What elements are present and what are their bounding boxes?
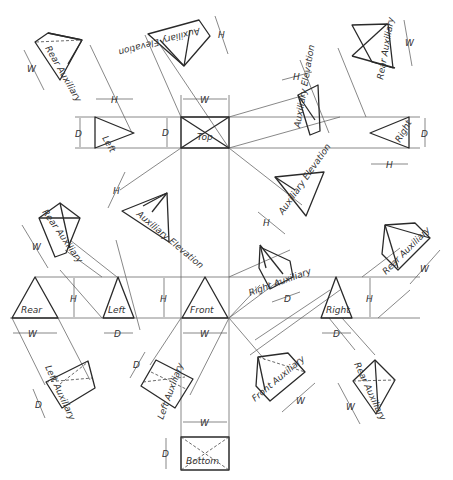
- dim-h-aux-ur: H: [293, 72, 300, 82]
- aux-elev-upper-right: Auxiliary Elevation H: [282, 44, 320, 135]
- aux-elev-top: Auxiliary Elevation H: [117, 16, 228, 66]
- rear-aux-mid-right: Rear Auxiliary W: [380, 223, 440, 284]
- right-label: Right: [326, 305, 350, 315]
- dim-d-bottom: D: [162, 449, 169, 459]
- aux-elev-lower-right: Auxiliary Elevation H: [258, 141, 333, 234]
- dim-h-right-top: H: [386, 160, 393, 170]
- dim-w-top: W: [200, 95, 210, 105]
- aux-elev-ll-label: Auxiliary Elevation: [134, 208, 206, 270]
- left-view: Left D H: [103, 277, 167, 339]
- right-aux: Right Auxiliary D: [247, 245, 313, 304]
- top-label: Top: [197, 132, 213, 142]
- dim-w-ra-mr: W: [420, 264, 430, 274]
- right-view: Right D H: [321, 277, 373, 339]
- dim-w-front: W: [200, 329, 210, 339]
- rear-aux-upper-left: Rear Auxiliary W: [24, 33, 84, 104]
- front-view: Front W: [182, 277, 228, 339]
- left-view-top-row: Left H D: [75, 95, 134, 154]
- rear-aux-mid-left: Rear Auxiliary W: [22, 203, 85, 268]
- left-aux-a-label: Left Auxiliary: [43, 364, 77, 423]
- dim-w-ra-ur: W: [405, 38, 415, 48]
- dim-h-left: H: [160, 294, 167, 304]
- dim-h-rear: H: [70, 294, 77, 304]
- dim-d-right: D: [333, 329, 340, 339]
- aux-elev-lower-left: Auxiliary Elevation H: [108, 172, 206, 271]
- dim-h-aux-top: H: [218, 30, 225, 40]
- dim-h-right: H: [366, 294, 373, 304]
- dim-d-top: D: [162, 128, 169, 138]
- bottom-view: Bottom W D: [162, 418, 229, 470]
- rear-label: Rear: [21, 305, 43, 315]
- top-view: Top W D: [162, 95, 229, 148]
- bottom-label: Bottom: [186, 456, 219, 466]
- dim-w-ra-ul: W: [27, 64, 37, 74]
- dim-w-rear: W: [28, 329, 38, 339]
- dim-w-front-aux: W: [296, 396, 306, 406]
- projection-drawing: Top W D Left H D Right H D Rear Auxiliar…: [0, 0, 453, 480]
- left-label-top: Left: [100, 134, 118, 154]
- dim-d-left-top: D: [75, 129, 82, 139]
- rear-view: Rear W H: [12, 277, 77, 339]
- rear-aux-ur-label: Rear Auxiliary: [375, 16, 396, 81]
- dim-d-right-aux: D: [284, 294, 291, 304]
- aux-elev-lr-label: Auxiliary Elevation: [276, 141, 333, 217]
- dim-w-ra-ml: W: [32, 242, 42, 252]
- dim-d-la-a: D: [35, 400, 42, 410]
- left-aux-a: Left Auxiliary D: [33, 361, 95, 422]
- dim-h-left-top: H: [111, 95, 118, 105]
- right-view-top-row: Right H D: [370, 117, 428, 170]
- dim-d-right-top: D: [421, 129, 428, 139]
- dim-w-bottom: W: [200, 418, 210, 428]
- rear-aux-lr-label: Rear Auxiliary: [352, 361, 388, 423]
- rear-aux-lower-right: Rear Auxiliary W: [338, 360, 395, 424]
- dim-d-la-b: D: [133, 360, 140, 370]
- left-aux-b: Left Auxiliary D: [130, 352, 193, 421]
- dim-d-left: D: [114, 329, 121, 339]
- dim-h-aux-lr: H: [263, 218, 270, 228]
- front-aux: Front Auxiliary W: [250, 353, 315, 412]
- rear-aux-upper-right: Rear Auxiliary W: [352, 16, 415, 81]
- rear-aux-ul-label: Rear Auxiliary: [43, 44, 84, 104]
- dim-w-ra-lr: W: [346, 402, 356, 412]
- front-label: Front: [190, 305, 214, 315]
- left-label: Left: [108, 305, 126, 315]
- dim-h-aux-ll: H: [113, 186, 120, 196]
